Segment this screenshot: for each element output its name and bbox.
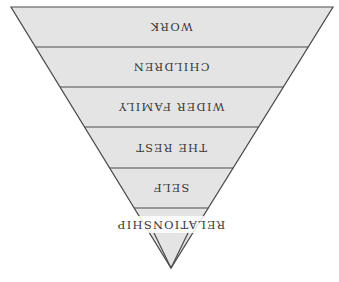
- level-label-the-rest: THE REST: [135, 141, 207, 155]
- level-label-relationship: RELATIONSHIP: [117, 218, 226, 232]
- level-label-work: WORK: [149, 20, 192, 34]
- level-label-wider-family: WIDER FAMILY: [118, 100, 225, 114]
- level-label-self: SELF: [153, 181, 190, 195]
- level-label-children: CHILDREN: [133, 60, 210, 74]
- inverted-pyramid-diagram: WORK CHILDREN WIDER FAMILY THE REST SELF…: [0, 0, 339, 282]
